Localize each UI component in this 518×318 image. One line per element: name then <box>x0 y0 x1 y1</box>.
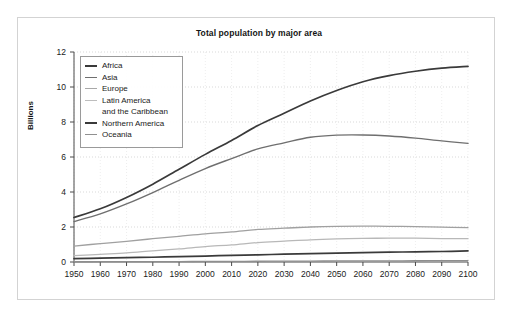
x-tick-label-1960: 1960 <box>91 269 110 279</box>
y-tick-label-12: 12 <box>57 47 67 57</box>
x-tick-label-2080: 2080 <box>406 269 425 279</box>
legend-item-africa[interactable]: Africa <box>85 60 182 72</box>
legend-label-latin-america-line2: and the Caribbean <box>102 106 168 118</box>
y-axis: 024681012 <box>57 47 74 267</box>
x-tick-label-1970: 1970 <box>117 269 136 279</box>
x-tick-label-2000: 2000 <box>196 269 215 279</box>
x-tick-label-1950: 1950 <box>65 269 84 279</box>
x-tick-label-2020: 2020 <box>248 269 267 279</box>
legend-swatch-northern-america <box>85 122 97 124</box>
y-tick-label-2: 2 <box>61 222 66 232</box>
x-tick-label-2030: 2030 <box>275 269 294 279</box>
x-axis: 1950196019701980199020002010202020302040… <box>65 262 478 279</box>
x-tick-label-2090: 2090 <box>432 269 451 279</box>
legend-item-asia[interactable]: Asia <box>85 72 182 84</box>
legend-item-latin-america[interactable]: Latin America <box>85 95 182 107</box>
legend-label-europe: Europe <box>102 83 128 95</box>
series-line-europe-plus-below <box>74 226 468 246</box>
x-tick-label-1990: 1990 <box>170 269 189 279</box>
legend-swatch-oceania <box>85 134 97 135</box>
x-tick-label-2070: 2070 <box>380 269 399 279</box>
y-tick-label-4: 4 <box>61 187 66 197</box>
x-tick-label-2040: 2040 <box>301 269 320 279</box>
x-tick-label-2060: 2060 <box>353 269 372 279</box>
legend-swatch-asia <box>85 77 97 78</box>
legend-label-africa: Africa <box>102 60 122 72</box>
legend-swatch-latin-america <box>85 100 97 101</box>
plot-canvas: 024681012 195019601970198019902000201020… <box>0 0 518 318</box>
legend-item-europe[interactable]: Europe <box>85 83 182 95</box>
y-tick-label-8: 8 <box>61 117 66 127</box>
y-tick-label-6: 6 <box>61 152 66 162</box>
legend-label-latin-america-line2-row: and the Caribbean <box>85 106 182 118</box>
y-tick-label-10: 10 <box>57 82 67 92</box>
y-tick-label-0: 0 <box>61 257 66 267</box>
x-tick-label-2010: 2010 <box>222 269 241 279</box>
legend-item-oceania[interactable]: Oceania <box>85 129 182 141</box>
chart-figure: Total population by major area Billions … <box>0 0 518 318</box>
x-tick-label-2100: 2100 <box>459 269 478 279</box>
legend-label-northern-america: Northern America <box>102 118 164 130</box>
legend-swatch-europe <box>85 88 97 89</box>
legend-label-oceania: Oceania <box>102 129 132 141</box>
chart-legend[interactable]: Africa Asia Europe Latin America and the… <box>80 56 183 148</box>
x-tick-label-1980: 1980 <box>143 269 162 279</box>
legend-label-asia: Asia <box>102 72 118 84</box>
legend-item-northern-america[interactable]: Northern America <box>85 118 182 130</box>
legend-label-latin-america: Latin America <box>102 95 150 107</box>
legend-swatch-africa <box>85 65 97 67</box>
x-tick-label-2050: 2050 <box>327 269 346 279</box>
